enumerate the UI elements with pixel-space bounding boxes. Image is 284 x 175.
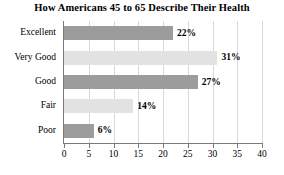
x-axis-tick-label: 30 (208, 149, 218, 159)
y-axis-category-label: Poor (38, 126, 56, 136)
bar-value-label: 22% (177, 29, 196, 39)
x-axis-tick (163, 144, 164, 148)
y-axis-line (63, 21, 64, 144)
x-axis-tick (89, 144, 90, 148)
x-axis-tick-label: 25 (183, 149, 193, 159)
bar-value-label: 14% (137, 102, 156, 112)
bar (64, 26, 173, 40)
y-axis-category-label: Good (35, 77, 56, 87)
bar (64, 124, 94, 138)
x-axis-tick-label: 35 (233, 149, 243, 159)
plot-area (64, 21, 262, 143)
x-axis-tick (262, 144, 263, 148)
x-axis-tick-label: 20 (158, 149, 168, 159)
bar (64, 51, 217, 65)
bar-value-label: 31% (221, 53, 240, 63)
y-axis-category-labels: ExcellentVery GoodGoodFairPoor (0, 21, 60, 143)
chart-title: How Americans 45 to 65 Describe Their He… (0, 2, 284, 13)
bar-value-label: 6% (98, 126, 112, 136)
x-axis-tick (64, 144, 65, 148)
x-axis-tick-label: 0 (62, 149, 67, 159)
y-axis-category-label: Fair (41, 101, 56, 111)
x-axis-tick (213, 144, 214, 148)
x-axis-tick-label: 5 (86, 149, 91, 159)
x-axis-tick (188, 144, 189, 148)
x-axis-tick-label: 15 (134, 149, 144, 159)
x-axis-tick (237, 144, 238, 148)
y-axis-category-label: Excellent (20, 28, 56, 38)
x-axis-tick (138, 144, 139, 148)
y-axis-category-label: Very Good (15, 53, 56, 63)
bar-value-label: 27% (202, 78, 221, 88)
x-axis-tick-label: 10 (109, 149, 119, 159)
bar (64, 75, 198, 89)
gridline (237, 21, 238, 143)
x-axis-tick (114, 144, 115, 148)
x-axis-tick-label: 40 (257, 149, 267, 159)
gridline (262, 21, 263, 143)
chart-page: How Americans 45 to 65 Describe Their He… (0, 0, 284, 175)
bar (64, 99, 133, 113)
